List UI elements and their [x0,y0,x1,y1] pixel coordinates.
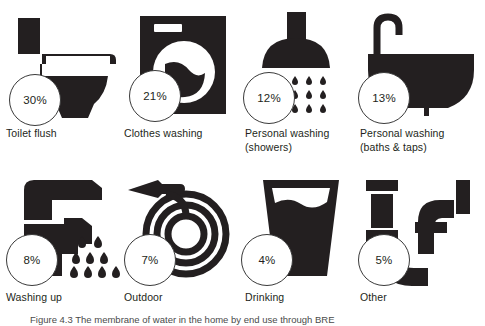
caption-line-2: (showers) [245,140,367,154]
pictogram-item-outdoor[interactable]: 7% Outdoor [124,172,242,312]
percentage-badge-toilet-flush: 30% [9,74,61,126]
percentage-value: 7% [141,254,158,266]
caption-toilet-flush: Toilet flush [6,126,128,140]
percentage-value: 8% [23,254,40,266]
percentage-value: 5% [375,254,392,266]
pictogram-row-top: 30% Toilet flush 21% Clothes wash [0,10,485,165]
caption-washing-up: Washing up [6,290,128,304]
caption-line-1: Clothes washing [124,126,246,140]
percentage-badge-washing-up: 8% [6,234,58,286]
percentage-badge-clothes-washing: 21% [129,70,181,122]
caption-line-1: Toilet flush [6,126,128,140]
caption-clothes-washing: Clothes washing [124,126,246,140]
caption-line-1: Other [360,290,482,304]
caption-personal-washing-baths-taps: Personal washing (baths & taps) [360,126,482,154]
caption-line-1: Personal washing [245,126,367,140]
pictogram-item-washing-up[interactable]: 8% Washing up [6,172,124,312]
pictogram-item-drinking[interactable]: 4% Drinking [245,172,363,312]
caption-line-2: (baths & taps) [360,140,482,154]
caption-drinking: Drinking [245,290,367,304]
percentage-value: 13% [372,92,396,104]
pictogram-item-toilet-flush[interactable]: 30% Toilet flush [6,10,124,165]
figure-caption: Figure 4.3 The membrane of water in the … [30,314,480,326]
pictogram-item-other[interactable]: 5% Other [360,172,478,312]
pictogram-item-personal-washing-baths-taps[interactable]: 13% Personal washing (baths & taps) [360,10,478,165]
caption-line-1: Outdoor [124,290,246,304]
percentage-value: 12% [257,92,281,104]
caption-line-1: Drinking [245,290,367,304]
caption-outdoor: Outdoor [124,290,246,304]
percentage-value: 30% [23,94,47,106]
percentage-value: 4% [258,254,275,266]
percentage-badge-outdoor: 7% [124,234,176,286]
percentage-badge-personal-washing-baths-taps: 13% [358,72,410,124]
pictogram-item-personal-washing-showers[interactable]: 12% Personal washing (showers) [245,10,363,165]
percentage-badge-drinking: 4% [241,234,293,286]
caption-other: Other [360,290,482,304]
pictogram-row-bottom: 8% Washing up 7% [0,172,485,312]
caption-personal-washing-showers: Personal washing (showers) [245,126,367,154]
caption-line-1: Personal washing [360,126,482,140]
caption-line-1: Washing up [6,290,128,304]
percentage-value: 21% [143,90,167,102]
pictogram-item-clothes-washing[interactable]: 21% Clothes washing [124,10,242,165]
percentage-badge-personal-washing-showers: 12% [243,72,295,124]
percentage-badge-other: 5% [358,234,410,286]
